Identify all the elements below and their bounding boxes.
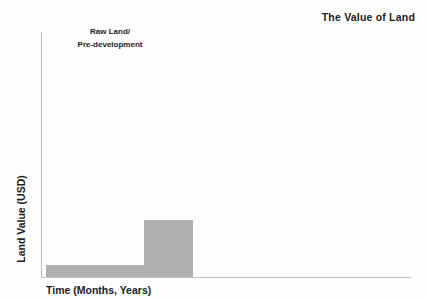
y-axis-label: Land Value (USD): [13, 163, 29, 275]
x-axis-label: Time (Months, Years): [46, 284, 151, 296]
bar-raw-land: [46, 265, 144, 277]
raw-land-annotation: Raw Land/ Pre-development: [57, 26, 163, 51]
chart-title: The Value of Land: [322, 11, 415, 23]
bar-entitled-land: [144, 220, 193, 277]
raw-land-annotation-line-2: Pre-development: [57, 39, 163, 52]
raw-land-annotation-line-1: Raw Land/: [57, 26, 163, 39]
x-axis-line: [41, 277, 411, 278]
chart-container: The Value of Land Land Value (USD) Time …: [0, 0, 426, 300]
y-axis-line: [41, 32, 42, 278]
